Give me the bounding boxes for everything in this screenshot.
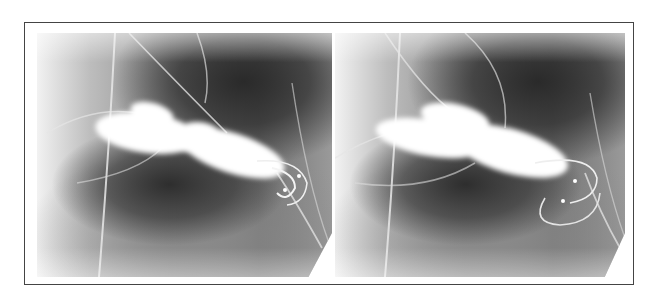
figure-frame [24, 22, 634, 285]
edge-fade [37, 33, 332, 277]
edge-fade [335, 33, 625, 277]
angiogram-panel-right [335, 33, 625, 277]
angiogram-panel-left [37, 33, 332, 277]
